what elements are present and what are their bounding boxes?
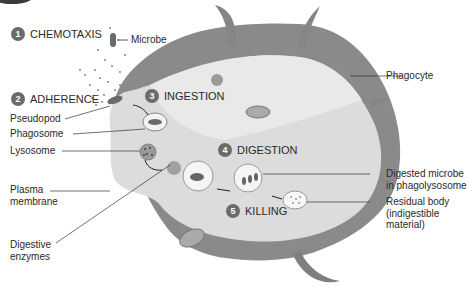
microbe [110,33,116,47]
label-digested-microbe: Digested microbe in phagolysosome [386,168,467,191]
step-badge: 1 [11,27,25,41]
label-lysosome: Lysosome [10,145,55,157]
step-badge: 5 [226,204,240,218]
label-line: Digestive [10,239,51,251]
step-2-adherence: 2 ADHERENCE [11,92,99,106]
step-label: DIGESTION [237,144,298,156]
label-line: Residual body [386,196,449,208]
step-label: CHEMOTAXIS [30,28,102,40]
step-5-killing: 5 KILLING [226,204,287,218]
label-line: membrane [10,196,58,208]
step-badge: 4 [218,143,232,157]
label-digestive-enzymes: Digestive enzymes [10,239,51,262]
label-line: in phagolysosome [386,180,467,192]
step-label: ADHERENCE [30,93,99,105]
label-line: material) [386,219,449,231]
lysosome [140,144,156,160]
label-line: enzymes [10,251,51,263]
step-label: INGESTION [164,90,225,102]
step-3-ingestion: 3 INGESTION [145,89,225,103]
label-residual-body: Residual body (indigestible material) [386,196,449,231]
label-line: Plasma [10,184,58,196]
step-label: KILLING [245,205,287,217]
step-1-chemotaxis: 1 CHEMOTAXIS [11,27,102,41]
label-plasma-membrane: Plasma membrane [10,184,58,207]
label-line: Digested microbe [386,168,467,180]
fusing-lysosome [167,161,181,175]
mitochondrion-upper [246,106,270,118]
label-phagocyte: Phagocyte [386,70,433,82]
label-pseudopod: Pseudopod [10,113,61,125]
cropped-badge [0,0,34,4]
step-4-digestion: 4 DIGESTION [218,143,298,157]
microbe-digesting [190,173,204,181]
ingested-microbe [148,119,162,125]
step-badge: 2 [11,92,25,106]
vesicle [211,74,223,86]
spike-bottom [293,250,340,282]
label-line: (indigestible [386,208,449,220]
step-badge: 3 [145,89,159,103]
label-phagosome: Phagosome [10,128,63,140]
label-microbe: Microbe [131,34,167,46]
